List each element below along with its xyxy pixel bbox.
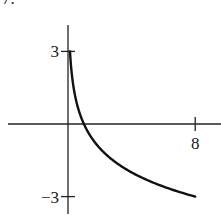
graph: 7. 83−3 bbox=[0, 0, 221, 220]
x-tick-label: 8 bbox=[191, 134, 200, 153]
y-tick-label: −3 bbox=[41, 188, 59, 207]
y-tick-label: 3 bbox=[51, 42, 60, 61]
problem-number: 7. bbox=[2, 0, 15, 8]
